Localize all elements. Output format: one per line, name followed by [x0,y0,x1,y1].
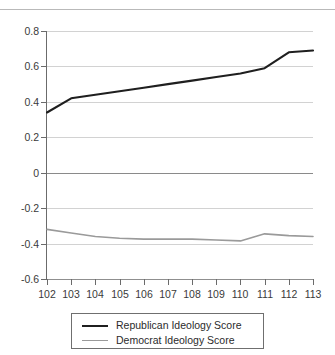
y-axis-label-0.4: 0.4 [3,97,39,107]
x-tick-104 [95,279,96,285]
x-tick-111 [265,279,266,285]
x-axis-labels: 102103104105106107108109110111112113 [0,288,335,302]
y-tick--0.4 [41,244,47,245]
legend-swatch-republican [82,325,108,327]
x-tick-108 [192,279,193,285]
x-axis-label-113: 113 [298,288,328,300]
y-axis-label-0.6: 0.6 [3,61,39,71]
y-axis-label--0.2: -0.2 [3,203,39,213]
y-tick-0 [41,173,47,174]
y-tick-0.6 [41,66,47,67]
x-tick-106 [144,279,145,285]
y-axis-label-0: 0 [3,168,39,178]
x-tick-110 [240,279,241,285]
x-tick-105 [120,279,121,285]
gridline-0 [47,173,313,174]
x-tick-102 [47,279,48,285]
x-tick-112 [289,279,290,285]
chart-legend: Republican Ideology Score Democrat Ideol… [71,313,264,349]
gridline--0.4 [47,244,313,245]
x-tick-103 [71,279,72,285]
x-tick-113 [313,279,314,285]
y-axis-label-0.8: 0.8 [3,26,39,36]
y-tick-0.8 [41,31,47,32]
series-line-republican [47,50,313,112]
y-axis-label-0.2: 0.2 [3,132,39,142]
ideology-score-line-chart: 0.80.60.40.20-0.2-0.4-0.6 10210310410510… [0,0,335,355]
gridline-0.6 [47,66,313,67]
legend-item-republican: Republican Ideology Score [72,318,263,333]
legend-swatch-democrat [82,340,108,341]
y-axis-label--0.4: -0.4 [3,239,39,249]
header-divider [0,9,335,10]
gridline-0.4 [47,102,313,103]
y-tick-0.4 [41,102,47,103]
x-tick-109 [216,279,217,285]
series-line-democrat [47,229,313,241]
clipped-title [0,0,335,9]
y-tick--0.2 [41,208,47,209]
legend-item-democrat: Democrat Ideology Score [72,333,263,348]
gridline--0.6 [47,279,313,280]
y-axis-label--0.6: -0.6 [3,274,39,284]
y-tick-0.2 [41,137,47,138]
y-axis-line [46,31,47,280]
gridline-0.2 [47,137,313,138]
gridline-0.8 [47,31,313,32]
gridline--0.2 [47,208,313,209]
x-tick-107 [168,279,169,285]
legend-label-democrat: Democrat Ideology Score [116,335,234,346]
legend-label-republican: Republican Ideology Score [116,320,242,331]
